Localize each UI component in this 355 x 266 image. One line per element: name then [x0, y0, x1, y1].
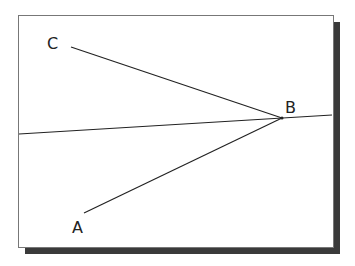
label-c: C: [47, 34, 58, 53]
diagram-canvas: C B A: [0, 0, 355, 266]
segment-ba: [84, 118, 282, 213]
segment-bc: [71, 47, 282, 118]
label-b: B: [285, 98, 296, 117]
line-through-b: [19, 115, 332, 134]
point-b-dot: [281, 117, 284, 120]
label-a: A: [72, 218, 83, 237]
